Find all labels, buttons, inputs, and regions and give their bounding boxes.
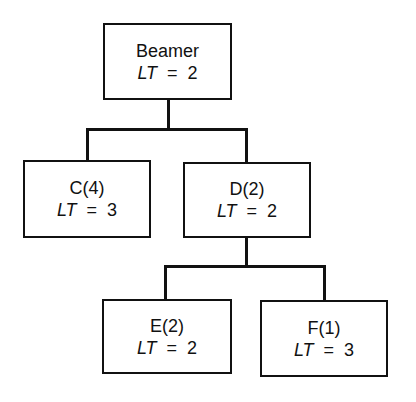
node-label: F(1)	[308, 317, 341, 339]
edge-to-e	[164, 265, 167, 300]
node-label: E(2)	[150, 315, 184, 337]
metric-operator: =	[167, 338, 178, 358]
metric-value: 2	[187, 338, 197, 358]
node-c: C(4) LT = 3	[23, 160, 151, 238]
metric-variable: LT	[137, 338, 157, 358]
node-metric: LT = 3	[57, 199, 117, 221]
edge-beamer-trunk	[167, 98, 170, 130]
metric-operator: =	[247, 201, 258, 221]
metric-value: 3	[107, 200, 117, 220]
metric-operator: =	[324, 340, 335, 360]
node-metric: LT = 2	[137, 337, 197, 359]
metric-value: 3	[344, 340, 354, 360]
node-e: E(2) LT = 2	[102, 299, 232, 374]
metric-variable: LT	[57, 200, 77, 220]
edge-to-c	[86, 128, 89, 161]
node-beamer: Beamer LT = 2	[103, 23, 232, 100]
edge-d-trunk	[245, 236, 248, 268]
node-label: C(4)	[70, 177, 105, 199]
node-label: D(2)	[230, 178, 265, 200]
node-metric: LT = 2	[137, 62, 197, 84]
node-d: D(2) LT = 2	[183, 162, 311, 238]
metric-operator: =	[167, 63, 178, 83]
node-label: Beamer	[136, 40, 199, 62]
node-metric: LT = 2	[217, 200, 277, 222]
node-f: F(1) LT = 3	[260, 300, 388, 377]
metric-value: 2	[267, 201, 277, 221]
node-metric: LT = 3	[294, 339, 354, 361]
metric-value: 2	[188, 63, 198, 83]
metric-variable: LT	[137, 63, 157, 83]
product-structure-tree: Beamer LT = 2 C(4) LT = 3 D(2) LT = 2 E(…	[0, 0, 416, 402]
edge-to-d	[245, 128, 248, 163]
metric-variable: LT	[294, 340, 314, 360]
metric-operator: =	[87, 200, 98, 220]
edge-d-bar	[164, 265, 326, 268]
edge-beamer-bar	[86, 128, 248, 131]
edge-to-f	[323, 265, 326, 301]
metric-variable: LT	[217, 201, 237, 221]
